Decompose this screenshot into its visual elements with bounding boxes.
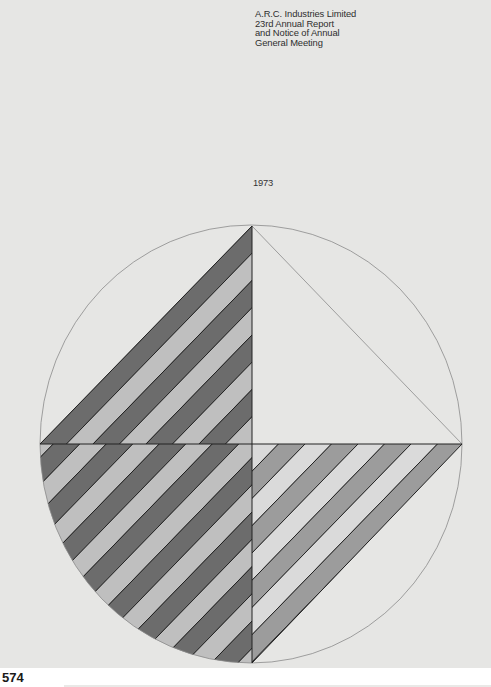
upper-right-diagonal — [252, 226, 462, 444]
page-footer — [0, 668, 491, 685]
page-number: 574 — [0, 670, 64, 687]
